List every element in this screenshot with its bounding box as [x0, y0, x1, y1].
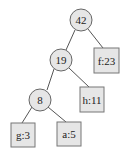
- node-label: 19: [56, 54, 68, 66]
- node-label: h:11: [82, 94, 101, 106]
- edge-19-h11: [69, 68, 89, 87]
- internal-node-19: 19: [50, 49, 72, 71]
- edge-19-8: [47, 69, 54, 90]
- leaf-node-a5: a:5: [57, 122, 81, 146]
- node-label: a:5: [62, 128, 76, 140]
- edge-8-g3: [22, 107, 32, 123]
- node-label: 8: [37, 94, 43, 106]
- edge-42-f23: [88, 29, 103, 48]
- huffman-tree-diagram: 42 19 f:23 8 h:11 g:3 a:5: [0, 0, 129, 151]
- node-label: f:23: [98, 55, 116, 67]
- leaf-node-g3: g:3: [11, 123, 35, 147]
- internal-node-42: 42: [70, 9, 92, 31]
- internal-node-8: 8: [29, 89, 51, 111]
- leaf-node-h11: h:11: [80, 87, 104, 112]
- leaf-node-f23: f:23: [94, 48, 119, 73]
- node-label: 42: [76, 14, 87, 26]
- edge-8-a5: [48, 107, 66, 122]
- edge-42-19: [66, 30, 75, 50]
- node-label: g:3: [16, 129, 31, 141]
